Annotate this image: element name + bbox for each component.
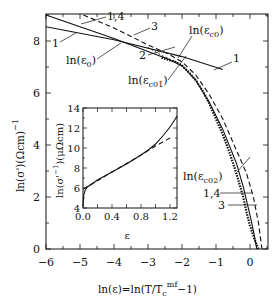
inset-plot: 0.0 0.4 0.8 1.2 4 6 8 10 12 14 ε ln(σ'−1… <box>52 103 178 241</box>
leader-line <box>237 157 250 172</box>
leader-line <box>97 43 121 59</box>
leader-line <box>60 33 76 42</box>
x-tick-label: −6 <box>38 256 54 269</box>
annotation-label: 1 <box>52 37 59 50</box>
leader-line <box>214 62 232 70</box>
inset-y-tick-label: 4 <box>74 203 80 214</box>
annotation-label: ln(εc02) <box>183 170 223 185</box>
inset-y-tick-label: 14 <box>67 103 80 114</box>
x-tick-label: −5 <box>72 256 88 269</box>
x-tick-label: −2 <box>174 256 190 269</box>
annotation-label: ln(ε0) <box>66 54 96 69</box>
inset-x-tick-label: 0.8 <box>133 211 149 222</box>
inset-x-tick-label: 0.4 <box>104 211 120 222</box>
y-axis-title: ln(σ')(Ωcm)−1 <box>11 119 26 192</box>
annotation-label: 3 <box>151 20 158 33</box>
x-axis-title: ln(ε)=ln(T/Tcmf−1) <box>98 280 197 298</box>
y-tick-label: 0 <box>33 243 40 256</box>
annotation-label: 1,4 <box>107 10 125 23</box>
leader-line <box>134 28 150 35</box>
inset-y-tick-label: 8 <box>74 163 80 174</box>
inset-frame <box>83 108 177 208</box>
inset-y-tick-label: 12 <box>67 123 80 134</box>
inset-y-axis-title: ln(σ'−1)(μΩcm) <box>52 123 65 198</box>
y-tick-label: 8 <box>33 35 40 48</box>
y-tick-label: 2 <box>33 191 40 204</box>
y-tick-label: 4 <box>33 139 40 152</box>
annotation-label: 1 <box>233 52 240 65</box>
inset-y-tick-label: 6 <box>74 183 80 194</box>
x-tick-label: −1 <box>208 256 224 269</box>
annotation-label: 3 <box>218 199 225 212</box>
annotation-label: ln(εc01) <box>128 74 168 89</box>
x-tick-label: −3 <box>140 256 156 269</box>
inset-x-tick-label: 1.2 <box>162 211 178 222</box>
x-tick-label: −4 <box>106 256 122 269</box>
inset-y-tick-label: 10 <box>67 143 80 154</box>
leader-line <box>178 36 192 58</box>
y-tick-label: 6 <box>33 87 40 100</box>
annotation-label: ln(εc0) <box>189 24 223 39</box>
chart-figure: −6 −5 −4 −3 −2 −1 0 0 2 4 6 8 ln(ε)=ln(T… <box>0 0 279 303</box>
x-tick-label: 0 <box>247 256 254 269</box>
annotation-label: 2 <box>139 49 146 62</box>
inset-x-axis-title: ε <box>124 230 129 241</box>
